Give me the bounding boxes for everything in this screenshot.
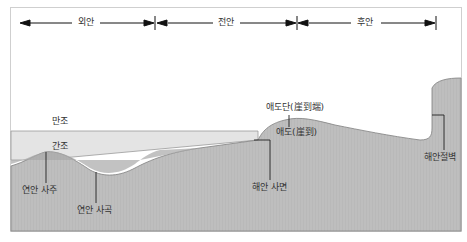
- sea-cliff-label: 해안절벽: [424, 153, 456, 162]
- zone-label-offshore: 외안: [74, 18, 98, 27]
- coastal-profile-diagram: [0, 0, 467, 242]
- beach-face-label: 해안 사면: [252, 183, 287, 192]
- berm-label: 애도(崖到): [276, 128, 317, 137]
- zone-label-foreshore: 전안: [214, 18, 238, 27]
- berm-crest-label: 애도단(崖到端): [266, 103, 324, 112]
- zone-label-backshore: 후안: [353, 18, 377, 27]
- longshore-bar-label: 연안 사주: [22, 186, 57, 195]
- high-tide-label: 만조: [52, 117, 68, 126]
- low-tide-label: 간조: [52, 142, 68, 151]
- longshore-trough-label: 연안 사곡: [77, 206, 112, 215]
